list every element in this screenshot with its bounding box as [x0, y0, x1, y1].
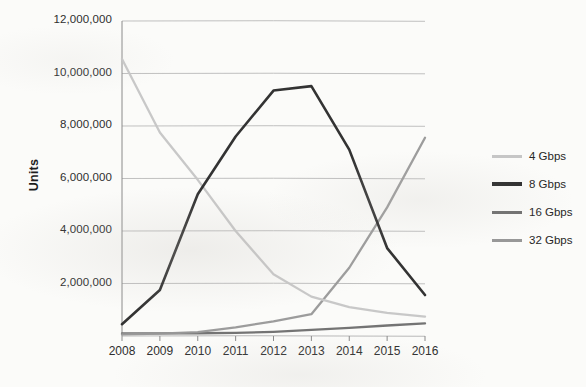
series-line: [122, 138, 425, 335]
y-tick-label: 12,000,000: [28, 13, 112, 25]
legend-item[interactable]: 16 Gbps: [492, 198, 586, 226]
series-line: [122, 323, 425, 333]
legend-label: 8 Gbps: [529, 178, 566, 190]
series-line: [122, 86, 425, 324]
legend-swatch: [492, 239, 522, 242]
legend-swatch: [492, 182, 522, 186]
legend-item[interactable]: 8 Gbps: [492, 170, 586, 198]
y-tick-label: 6,000,000: [28, 171, 112, 183]
legend-swatch: [492, 211, 522, 214]
legend-item[interactable]: 4 Gbps: [492, 142, 586, 170]
series-line: [122, 59, 425, 317]
x-tick-label: 2016: [403, 344, 447, 358]
legend-label: 32 Gbps: [529, 234, 572, 246]
gridlines: [122, 21, 425, 337]
y-tick-label: 2,000,000: [28, 276, 112, 288]
legend-label: 4 Gbps: [529, 150, 566, 162]
chart-legend: 4 Gbps8 Gbps16 Gbps32 Gbps: [492, 142, 586, 254]
y-tick-label: 8,000,000: [28, 118, 112, 130]
legend-label: 16 Gbps: [529, 206, 572, 218]
line-chart: Units 2,000,0004,000,0006,000,0008,000,0…: [0, 0, 586, 387]
x-axis-ticks: [122, 336, 425, 341]
y-tick-label: 10,000,000: [28, 66, 112, 78]
legend-item[interactable]: 32 Gbps: [492, 226, 586, 254]
legend-swatch: [492, 155, 522, 158]
y-tick-label: 4,000,000: [28, 223, 112, 235]
